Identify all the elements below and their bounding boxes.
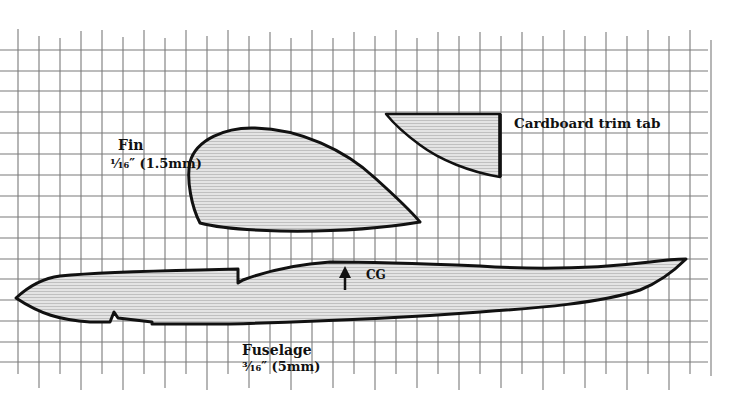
trim-tab-label: Cardboard trim tab xyxy=(514,117,660,131)
fin-label: Fin xyxy=(118,138,143,152)
fin-shape xyxy=(189,128,420,231)
fin-thickness-label: ¹⁄₁₆″ (1.5mm) xyxy=(110,157,202,170)
trim-tab-shape xyxy=(386,114,500,177)
parts-diagram xyxy=(0,0,750,407)
fuselage-label: Fuselage xyxy=(242,343,312,357)
cg-label: CG xyxy=(366,269,386,281)
fuselage-thickness-label: ³⁄₁₆″ (5mm) xyxy=(242,360,320,373)
